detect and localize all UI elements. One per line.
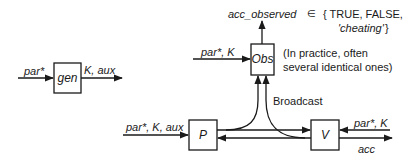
set-line-2: 'cheating' [338,22,384,34]
obs-label: Obs [251,52,274,66]
gen-output-label: K, aux [84,64,115,76]
v-output-label: acc [358,143,375,155]
set-close: } [385,22,389,34]
element-of-symbol: ∈ [307,8,316,20]
gen-label: gen [54,71,81,85]
p-input-label: par*, K, aux [126,121,183,133]
set-line-1: { TRUE, FALSE, [323,8,403,20]
broadcast-curve-left [226,76,258,130]
obs-input-label: par*, K [201,46,235,58]
obs-note-line-1: (In practice, often [283,47,368,59]
v-label: V [311,128,339,142]
p-label: P [189,128,217,142]
obs-output-label: acc_observed [228,8,297,20]
obs-note-line-2: several identical ones) [283,61,392,73]
gen-input-label: par* [24,65,44,77]
broadcast-curve-right [266,76,305,138]
broadcast-label: Broadcast [273,95,323,107]
v-input-label: par*, K [354,117,388,129]
